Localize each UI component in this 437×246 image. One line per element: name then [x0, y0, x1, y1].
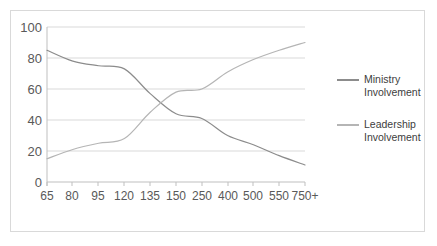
legend-item-ministry-involvement[interactable]: Ministry Involvement: [337, 73, 434, 98]
legend-label-leadership-line1: Leadership: [364, 118, 434, 131]
legend-item-leadership-involvement[interactable]: Leadership Involvement: [337, 118, 434, 143]
x-tick-label-750plus: 750+: [289, 190, 321, 202]
legend-swatch-ministry-involvement: [337, 79, 359, 81]
series-line-ministry-involvement: [47, 50, 305, 165]
gridlines: [47, 27, 305, 151]
x-tick-label-400: 400: [214, 190, 242, 202]
x-tick-label-250: 250: [188, 190, 216, 202]
x-tick-label-80: 80: [59, 190, 85, 202]
x-tick-label-150: 150: [162, 190, 190, 202]
legend-label-ministry-line1: Ministry: [364, 73, 434, 86]
series-line-leadership-involvement: [47, 43, 305, 159]
line-chart: 100 80 60 40 20 0: [0, 0, 437, 246]
legend-swatch-leadership-involvement: [337, 124, 359, 126]
legend-label-ministry-line2: Involvement: [364, 86, 434, 99]
x-tick-label-65: 65: [34, 190, 60, 202]
x-tick-label-135: 135: [136, 190, 164, 202]
legend-label-leadership-line2: Involvement: [364, 131, 434, 144]
x-tick-label-120: 120: [110, 190, 138, 202]
x-axis-ticks: [47, 182, 305, 186]
x-tick-label-95: 95: [85, 190, 111, 202]
x-tick-label-500: 500: [239, 190, 267, 202]
